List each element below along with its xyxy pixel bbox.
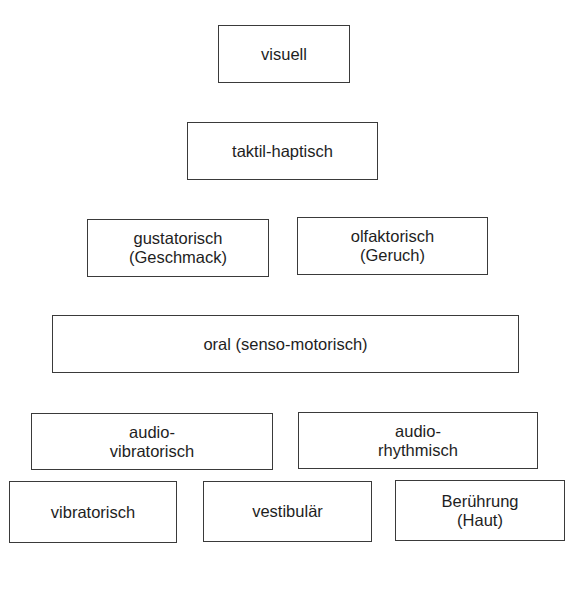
box-sublabel: (Geruch) xyxy=(360,246,425,265)
box-label-line2: rhythmisch xyxy=(378,441,458,460)
box-audio-vibratorisch: audio- vibratorisch xyxy=(31,413,273,470)
box-olfaktorisch: olfaktorisch (Geruch) xyxy=(297,217,488,275)
box-label: vibratorisch xyxy=(51,503,135,522)
box-label: oral (senso-motorisch) xyxy=(203,335,367,354)
box-label: gustatorisch xyxy=(134,229,223,248)
box-label: Berührung xyxy=(441,492,518,511)
box-sublabel: (Haut) xyxy=(457,511,503,530)
box-gustatorisch: gustatorisch (Geschmack) xyxy=(87,219,269,277)
box-label: olfaktorisch xyxy=(351,227,434,246)
box-beruehrung: Berührung (Haut) xyxy=(395,480,565,541)
box-label-line2: vibratorisch xyxy=(110,442,194,461)
box-label: visuell xyxy=(261,45,307,64)
box-label: taktil-haptisch xyxy=(232,142,333,161)
box-visuell: visuell xyxy=(218,25,350,83)
box-vibratorisch: vibratorisch xyxy=(9,481,177,543)
box-sublabel: (Geschmack) xyxy=(129,248,227,267)
box-label: audio- xyxy=(395,422,441,441)
box-taktil-haptisch: taktil-haptisch xyxy=(187,122,378,180)
box-audio-rhythmisch: audio- rhythmisch xyxy=(298,412,538,469)
box-oral: oral (senso-motorisch) xyxy=(52,315,519,373)
box-label: audio- xyxy=(129,423,175,442)
box-vestibulaer: vestibulär xyxy=(203,481,372,542)
box-label: vestibulär xyxy=(252,502,323,521)
